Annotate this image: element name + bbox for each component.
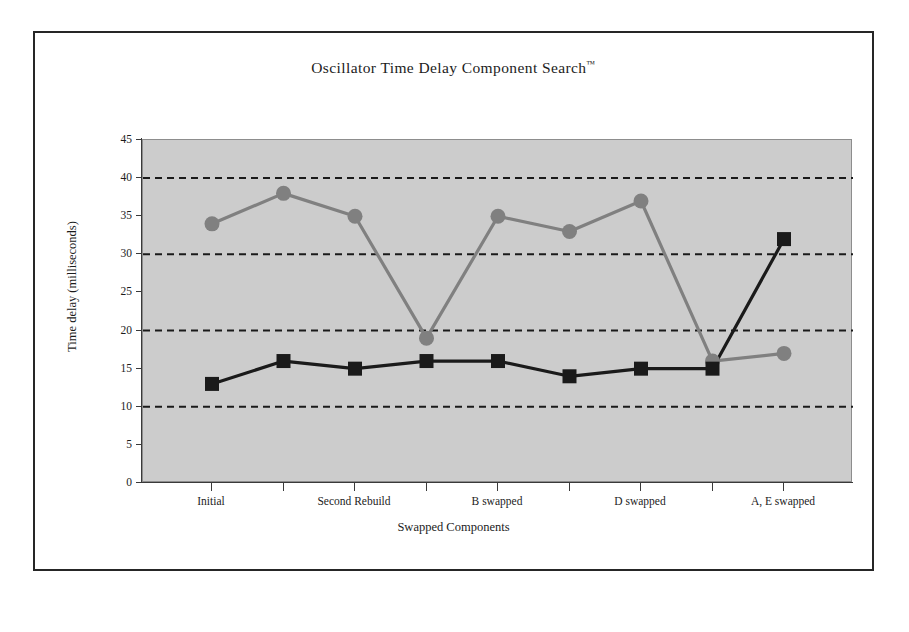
y-tick-label: 30 — [98, 247, 132, 259]
x-tick-mark — [354, 483, 355, 491]
y-tick-label: 25 — [98, 285, 132, 297]
y-tick-label: 35 — [98, 209, 132, 221]
x-axis-title: Swapped Components — [35, 520, 872, 535]
x-tick-mark — [497, 483, 498, 491]
y-tick-label: 45 — [98, 133, 132, 145]
x-tick-label: B swapped — [472, 495, 523, 507]
data-point-marker — [563, 369, 577, 383]
y-tick-label: 5 — [98, 438, 132, 450]
data-point-marker — [348, 362, 362, 376]
y-tick-label: 40 — [98, 171, 132, 183]
data-point-marker — [277, 354, 291, 368]
x-tick-mark — [283, 483, 284, 491]
x-tick-mark — [211, 483, 212, 491]
x-tick-mark — [783, 483, 784, 491]
x-tick-mark — [426, 483, 427, 491]
chart-title: Oscillator Time Delay Component Search™ — [35, 59, 872, 77]
data-point-marker — [420, 354, 434, 368]
y-tick-label: 0 — [98, 476, 132, 488]
x-tick-label: A, E swapped — [751, 495, 815, 507]
x-tick-mark — [569, 483, 570, 491]
data-point-marker — [491, 209, 506, 224]
data-point-marker — [634, 193, 649, 208]
x-tick-label: D swapped — [614, 495, 665, 507]
plot-svg — [143, 140, 853, 483]
y-tick-label: 15 — [98, 362, 132, 374]
x-tick-mark — [640, 483, 641, 491]
chart-title-text: Oscillator Time Delay Component Search — [311, 59, 586, 76]
plot-area — [142, 139, 852, 482]
data-point-marker — [777, 346, 792, 361]
chart-frame: Oscillator Time Delay Component Search™ … — [33, 31, 874, 571]
y-axis-title: Time delay (milliseconds) — [65, 187, 80, 387]
data-point-marker — [348, 209, 363, 224]
data-point-marker — [491, 354, 505, 368]
data-point-marker — [777, 232, 791, 246]
x-tick-label: Second Rebuild — [317, 495, 390, 507]
data-point-marker — [205, 216, 220, 231]
y-tick-label: 20 — [98, 324, 132, 336]
x-tick-label: Initial — [197, 495, 224, 507]
data-point-marker — [205, 377, 219, 391]
data-point-marker — [276, 186, 291, 201]
data-point-marker — [634, 362, 648, 376]
trademark-symbol: ™ — [586, 59, 595, 69]
data-point-marker — [419, 331, 434, 346]
data-point-marker — [562, 224, 577, 239]
y-tick-label: 10 — [98, 400, 132, 412]
x-tick-mark — [712, 483, 713, 491]
data-point-marker — [706, 362, 720, 376]
